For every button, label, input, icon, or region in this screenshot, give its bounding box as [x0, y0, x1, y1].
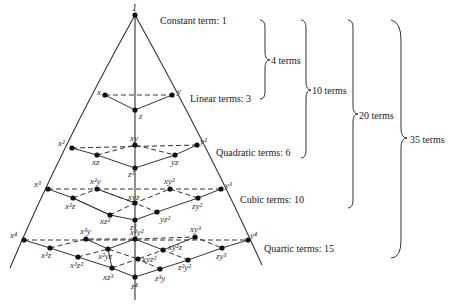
brace-label-35: 35 terms [410, 134, 445, 145]
svg-text:zy²: zy² [191, 201, 202, 211]
svg-text:x²y: x²y [89, 176, 101, 186]
left-edge [10, 15, 135, 268]
brace-label-10: 10 terms [312, 85, 347, 96]
level-label-linear: Linear terms: 3 [190, 93, 251, 104]
svg-text:yz²: yz² [159, 214, 170, 224]
brace-4-terms [260, 20, 270, 99]
svg-text:xy²z: xy²z [167, 242, 183, 252]
svg-text:y⁴: y⁴ [249, 230, 257, 240]
level-label-cubic: Cubic terms: 10 [240, 194, 304, 205]
svg-text:xy: xy [129, 133, 138, 143]
apex-label: 1 [132, 2, 137, 13]
svg-text:y²: y² [199, 136, 207, 146]
svg-text:x²: x² [57, 138, 65, 148]
svg-text:x: x [96, 87, 101, 97]
svg-text:xz²: xz² [99, 216, 110, 226]
svg-text:x²yz: x²yz [97, 251, 113, 261]
brace-35-terms [391, 20, 407, 258]
svg-text:z²y²: z²y² [177, 262, 191, 272]
svg-text:x²z²: x²z² [69, 260, 83, 270]
svg-text:zy³: zy³ [215, 251, 226, 261]
brace-10-terms [301, 20, 311, 158]
svg-text:x³y: x³y [79, 226, 91, 236]
svg-text:y³: y³ [224, 180, 232, 190]
svg-text:x³z: x³z [40, 250, 52, 260]
svg-text:x²z: x²z [64, 201, 76, 211]
level-label-constant: Constant term: 1 [160, 15, 227, 26]
svg-text:yz: yz [170, 157, 179, 167]
brace-label-4: 4 terms [271, 55, 301, 66]
svg-text:xyz²: xyz² [141, 254, 156, 264]
svg-text:x²y²: x²y² [129, 227, 144, 237]
svg-text:x³: x³ [33, 179, 41, 189]
pascal-pyramid-diagram: 1 x y z x² xy y² xz yz z² x³ x²y xy² y³ … [0, 0, 451, 308]
level-label-quadratic: Quadratic terms: 6 [216, 147, 290, 158]
level-label-quartic: Quartic terms: 15 [264, 243, 334, 254]
svg-text:xz³: xz³ [102, 272, 113, 282]
brace-label-20: 20 terms [359, 110, 394, 121]
brace-20-terms [348, 20, 358, 208]
svg-text:z: z [138, 111, 143, 121]
svg-text:xy²: xy² [163, 176, 175, 186]
svg-text:xy³: xy³ [189, 224, 201, 234]
svg-text:x⁴: x⁴ [9, 230, 17, 240]
svg-text:y: y [176, 86, 181, 96]
svg-text:xz: xz [91, 157, 100, 167]
svg-text:z³y: z³y [154, 273, 165, 283]
svg-text:z⁴: z⁴ [130, 281, 138, 291]
svg-text:xyz: xyz [127, 192, 140, 202]
svg-text:z²: z² [127, 169, 135, 179]
